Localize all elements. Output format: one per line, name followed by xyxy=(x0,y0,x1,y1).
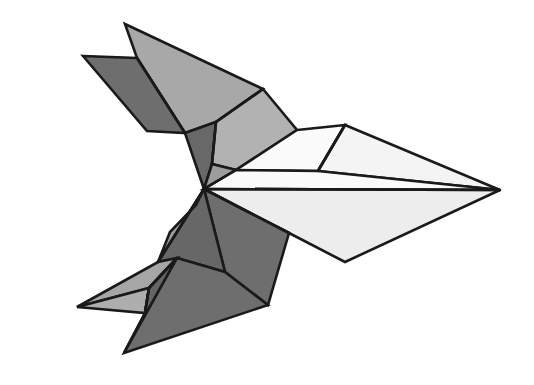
origami-figure-canvas: Origami Bird Facet Diagram xyxy=(0,0,534,385)
crease-beak-midline xyxy=(204,189,500,190)
origami-bird-diagram: Origami Bird Facet Diagram xyxy=(0,0,534,385)
